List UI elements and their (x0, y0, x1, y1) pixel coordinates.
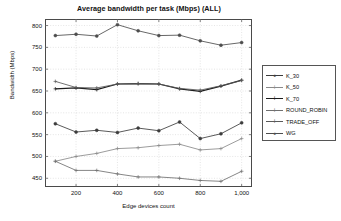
legend-item-k_30[interactable]: ●K_30 (263, 70, 335, 82)
legend-marker-icon: + (266, 106, 283, 115)
y-axis-title: Bandwidth (Mbps) (9, 20, 15, 130)
x-tick-label: 800 (185, 190, 215, 196)
legend-item-k_70[interactable]: +K_70 (263, 93, 335, 105)
x-tick-label: 600 (144, 190, 174, 196)
legend-label: TRADE_OFF (283, 119, 319, 125)
chart-figure: Average bandwidth per task (Mbps) (ALL) … (0, 0, 341, 221)
x-tick-label: 400 (102, 190, 132, 196)
legend-label: ROUND_ROBIN (283, 107, 327, 113)
chart-legend: ●K_30+K_50+K_70+ROUND_ROBIN+TRADE_OFF●WG (262, 65, 336, 141)
legend-label: WG (283, 130, 296, 136)
legend-marker-icon: + (266, 83, 283, 92)
x-tick-label: 1,000 (227, 190, 257, 196)
legend-item-k_50[interactable]: +K_50 (263, 82, 335, 94)
legend-marker-icon: ● (266, 71, 283, 80)
legend-label: K_50 (283, 84, 299, 90)
legend-marker-icon: + (266, 94, 283, 103)
legend-marker-icon: + (266, 117, 283, 126)
legend-item-wg[interactable]: ●WG (263, 128, 335, 140)
x-axis-title: Edge devices count (45, 203, 252, 209)
legend-label: K_70 (283, 96, 299, 102)
legend-item-round_robin[interactable]: +ROUND_ROBIN (263, 105, 335, 117)
legend-marker-icon: ● (266, 129, 283, 138)
legend-item-trade_off[interactable]: +TRADE_OFF (263, 116, 335, 128)
x-tick-label: 200 (61, 190, 91, 196)
legend-label: K_30 (283, 73, 299, 79)
